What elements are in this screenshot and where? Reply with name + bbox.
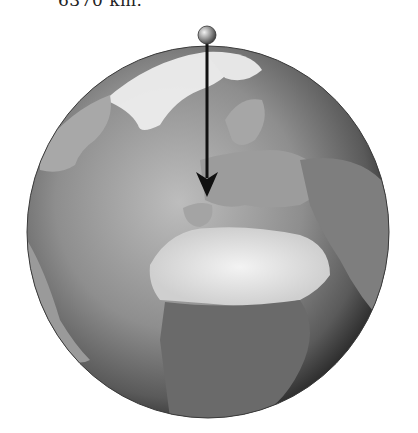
pin bbox=[198, 26, 216, 44]
globe-diagram bbox=[0, 0, 418, 433]
